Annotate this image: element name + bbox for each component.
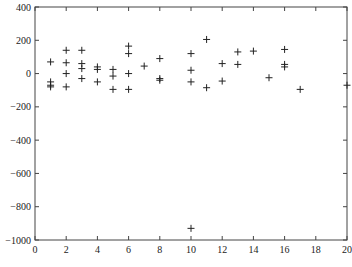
x-tick-label: 14: [248, 244, 258, 255]
plus-marker-icon: [281, 46, 288, 53]
plus-marker-icon: [78, 75, 85, 82]
plus-marker-icon: [110, 73, 117, 80]
plot-border: [35, 7, 347, 240]
plus-marker-icon: [297, 86, 304, 93]
y-tick-label: −800: [10, 201, 31, 212]
data-points: [47, 36, 350, 232]
plus-marker-icon: [234, 61, 241, 68]
plus-marker-icon: [156, 55, 163, 62]
x-tick-label: 4: [95, 244, 100, 255]
plus-marker-icon: [219, 60, 226, 67]
plus-marker-icon: [110, 66, 117, 73]
y-axis: 4002000−200−400−600−800−1000: [5, 2, 347, 246]
plus-marker-icon: [141, 63, 148, 70]
plus-marker-icon: [156, 77, 163, 84]
y-tick-label: −200: [10, 101, 31, 112]
scatter-chart: 02468101214161820 4002000−200−400−600−80…: [0, 0, 352, 267]
plus-marker-icon: [266, 74, 273, 81]
plus-marker-icon: [344, 82, 351, 89]
x-tick-label: 2: [64, 244, 69, 255]
x-tick-label: 12: [217, 244, 227, 255]
plus-marker-icon: [78, 65, 85, 72]
x-tick-label: 6: [126, 244, 131, 255]
plot-frame: [35, 7, 347, 240]
plus-marker-icon: [63, 59, 70, 66]
plus-marker-icon: [219, 78, 226, 85]
plus-marker-icon: [188, 78, 195, 85]
plus-marker-icon: [234, 48, 241, 55]
plus-marker-icon: [203, 36, 210, 43]
plus-marker-icon: [125, 86, 132, 93]
x-tick-label: 10: [186, 244, 196, 255]
x-tick-label: 20: [342, 244, 352, 255]
plus-marker-icon: [110, 86, 117, 93]
y-tick-label: 400: [16, 2, 31, 13]
plus-marker-icon: [94, 78, 101, 85]
plus-marker-icon: [188, 50, 195, 57]
plus-marker-icon: [47, 58, 54, 65]
x-tick-label: 8: [157, 244, 162, 255]
plus-marker-icon: [63, 70, 70, 77]
plus-marker-icon: [47, 83, 54, 90]
plus-marker-icon: [250, 48, 257, 55]
plus-marker-icon: [125, 70, 132, 77]
y-tick-label: −400: [10, 135, 31, 146]
y-tick-label: 200: [16, 35, 31, 46]
plus-marker-icon: [78, 47, 85, 54]
plus-marker-icon: [203, 84, 210, 91]
plus-marker-icon: [125, 50, 132, 57]
x-tick-label: 16: [280, 244, 290, 255]
y-tick-label: −1000: [5, 235, 31, 246]
plus-marker-icon: [188, 67, 195, 74]
plus-marker-icon: [63, 47, 70, 54]
x-tick-label: 18: [311, 244, 321, 255]
plus-marker-icon: [63, 83, 70, 90]
plus-marker-icon: [125, 43, 132, 50]
y-tick-label: −600: [10, 168, 31, 179]
x-tick-label: 0: [33, 244, 38, 255]
plus-marker-icon: [188, 225, 195, 232]
x-axis: 02468101214161820: [33, 7, 352, 255]
y-tick-label: 0: [26, 68, 31, 79]
